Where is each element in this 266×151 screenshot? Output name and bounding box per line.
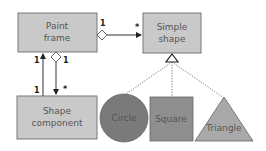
paint-frame-class[interactable]: Paint frame	[18, 13, 97, 52]
triangle-class[interactable]: Triangle	[195, 97, 253, 141]
aggregation-frame-component: 1 *	[51, 52, 69, 94]
diamond-icon	[51, 52, 61, 62]
square-class[interactable]: Square	[150, 97, 193, 141]
association-component-frame: 1 1	[34, 54, 43, 96]
triangle-label: Triangle	[205, 123, 242, 133]
square-label: Square	[155, 114, 187, 124]
shape-component-class[interactable]: Shape component	[17, 96, 97, 139]
inheritance-generalization	[126, 54, 224, 98]
shape-component-label-2: component	[32, 118, 83, 128]
mult-frame-simple-source: 1	[100, 19, 106, 28]
circle-class[interactable]: Circle	[100, 94, 148, 142]
circle-label: Circle	[111, 113, 137, 123]
shape-component-label-1: Shape	[43, 106, 72, 116]
inheritance-triangle-icon	[166, 54, 178, 62]
simple-shape-class[interactable]: Simple shape	[143, 13, 201, 53]
uml-diagram: Paint frame Simple shape Shape component…	[0, 0, 266, 151]
mult-component-frame-source: 1	[34, 86, 40, 95]
paint-frame-label-1: Paint	[46, 21, 69, 31]
simple-shape-label-2: shape	[158, 34, 186, 44]
mult-frame-simple-target: *	[135, 23, 140, 32]
simple-shape-label-1: Simple	[157, 22, 188, 32]
mult-frame-component-source: 1	[63, 56, 69, 65]
paint-frame-label-2: frame	[44, 33, 71, 43]
diamond-icon	[97, 30, 107, 40]
mult-frame-component-target: *	[63, 85, 68, 94]
mult-component-frame-target: 1	[34, 56, 40, 65]
aggregation-frame-simple: 1 *	[97, 19, 141, 40]
